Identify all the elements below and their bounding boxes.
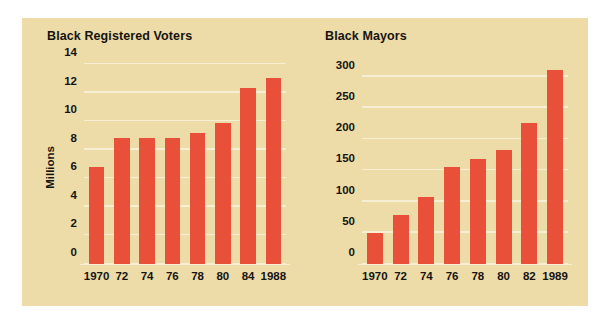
- x-axis-tick-label: 74: [141, 270, 154, 282]
- y-axis-tick-label: 250: [336, 90, 355, 102]
- bar-group: 76: [160, 64, 185, 264]
- bar-group: 1970: [362, 64, 388, 264]
- x-axis-tick-label: 84: [242, 270, 255, 282]
- bar-group: 82: [517, 64, 543, 264]
- bar-group: 1970: [84, 64, 109, 264]
- x-axis-tick-label: 80: [216, 270, 229, 282]
- bar: [266, 78, 282, 264]
- bar: [418, 197, 434, 264]
- plot-area: 02468101214 19707274767880841988: [84, 64, 286, 264]
- x-axis-tick-label: 1989: [542, 270, 568, 282]
- bar: [367, 233, 383, 264]
- bar-group: 84: [236, 64, 261, 264]
- y-axis-tick-label: 12: [64, 75, 77, 87]
- chart-black-mayors: Black Mayors 050100150200250300 19707274…: [312, 18, 588, 306]
- y-axis-tick-label: 4: [71, 189, 77, 201]
- x-axis-tick-label: 78: [471, 270, 484, 282]
- y-axis-tick-label: 150: [336, 152, 355, 164]
- bar-group: 76: [439, 64, 465, 264]
- bar: [139, 138, 155, 264]
- bar-group: 74: [135, 64, 160, 264]
- y-axis-tick-label: 6: [71, 160, 77, 172]
- bar-group: 72: [109, 64, 134, 264]
- bar-group: 1989: [542, 64, 568, 264]
- bar: [190, 133, 206, 264]
- bar: [165, 138, 181, 264]
- y-axis-tick-label: 100: [336, 184, 355, 196]
- chart-black-registered-voters: Black Registered Voters Millions 0246810…: [22, 18, 312, 306]
- x-axis-tick-label: 80: [497, 270, 510, 282]
- y-axis-tick-label: 300: [336, 59, 355, 71]
- bar: [114, 138, 130, 264]
- chart-title: Black Mayors: [325, 29, 407, 43]
- x-axis-tick-label: 78: [191, 270, 204, 282]
- bar-group: 72: [388, 64, 414, 264]
- bar-group: 78: [185, 64, 210, 264]
- bar-group: 74: [414, 64, 440, 264]
- bar-group: 78: [465, 64, 491, 264]
- x-axis-tick-label: 1988: [261, 270, 287, 282]
- y-axis-tick-label: 14: [64, 46, 77, 58]
- bar-group: 1988: [261, 64, 286, 264]
- x-axis-tick-label: 74: [420, 270, 433, 282]
- y-axis-tick-label: 8: [71, 132, 77, 144]
- bar: [496, 150, 512, 264]
- x-axis-tick-label: 1970: [362, 270, 388, 282]
- x-axis-tick-label: 82: [523, 270, 536, 282]
- bar: [240, 88, 256, 264]
- plot-area: 050100150200250300 19707274767880821989: [362, 64, 568, 264]
- bar-group: 80: [210, 64, 235, 264]
- x-axis-tick-label: 76: [446, 270, 459, 282]
- x-axis-tick-label: 1970: [84, 270, 110, 282]
- bar-series: 19707274767880821989: [362, 64, 568, 264]
- y-axis-label: Millions: [44, 146, 56, 189]
- y-axis-tick-label: 0: [349, 246, 355, 258]
- bar: [393, 215, 409, 264]
- bar-group: 80: [491, 64, 517, 264]
- y-axis-tick-label: 50: [342, 215, 355, 227]
- bar: [547, 70, 563, 264]
- bar: [470, 159, 486, 264]
- bar: [89, 167, 105, 264]
- bar: [444, 167, 460, 265]
- chart-title: Black Registered Voters: [47, 29, 192, 43]
- y-axis-tick-label: 2: [71, 217, 77, 229]
- y-axis-tick-label: 10: [64, 103, 77, 115]
- x-axis-tick-label: 72: [394, 270, 407, 282]
- bar: [215, 123, 231, 264]
- x-axis-tick-label: 76: [166, 270, 179, 282]
- y-axis-tick-label: 0: [71, 246, 77, 258]
- x-axis-tick-label: 72: [115, 270, 128, 282]
- y-axis-tick-label: 200: [336, 121, 355, 133]
- bar: [521, 123, 537, 264]
- bar-series: 19707274767880841988: [84, 64, 286, 264]
- figure-panel: Black Registered Voters Millions 0246810…: [22, 18, 588, 306]
